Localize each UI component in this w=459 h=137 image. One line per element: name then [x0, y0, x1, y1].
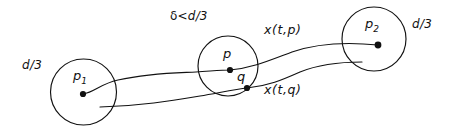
- point-label-q: q: [237, 70, 245, 83]
- radius-label-left: d/3: [22, 59, 42, 71]
- trajectory-label-x-t-q: x(t,q): [264, 84, 302, 97]
- point-label-p2-subscript: 2: [373, 24, 379, 34]
- point-label-p1: p1: [73, 69, 87, 86]
- delta-condition-label: δ<d/3: [170, 10, 208, 22]
- point-p2-dot: [375, 42, 382, 49]
- point-p1-dot: [80, 91, 86, 97]
- delta-bound: d/3: [188, 9, 208, 23]
- point-label-p2: p2: [365, 17, 379, 34]
- delta-symbol: δ: [170, 9, 178, 23]
- point-p-dot: [227, 67, 233, 73]
- point-q-dot: [244, 85, 250, 91]
- point-label-p: p: [223, 47, 231, 60]
- point-label-p1-subscript: 1: [81, 76, 87, 86]
- delta-relation: <: [178, 9, 188, 23]
- diagram-canvas: d/3 d/3 δ<d/3 p1 p q p2 x(t,p) x(t,q): [0, 0, 459, 137]
- trajectory-label-x-t-p: x(t,p): [264, 24, 302, 37]
- diagram-vector-layer: [0, 0, 459, 137]
- radius-label-right: d/3: [412, 18, 432, 30]
